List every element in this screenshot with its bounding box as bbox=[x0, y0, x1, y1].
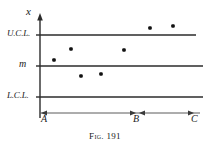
data-point bbox=[69, 47, 73, 51]
y-axis-label: x bbox=[26, 6, 31, 17]
x-tick-label-a: A bbox=[41, 114, 47, 124]
figure-caption: Fig. 191 bbox=[0, 131, 210, 141]
control-chart-svg bbox=[0, 0, 210, 126]
data-point-group bbox=[52, 24, 175, 78]
data-point bbox=[79, 74, 83, 78]
caption-prefix: Fig. bbox=[89, 131, 104, 141]
data-point bbox=[122, 48, 126, 52]
x-tick-label-c: C bbox=[191, 114, 198, 124]
control-chart-plot: x U.C.L. m L.C.L. A B C bbox=[0, 0, 210, 126]
figure-191: x U.C.L. m L.C.L. A B C Fig. 191 bbox=[0, 0, 210, 154]
lcl-label: L.C.L. bbox=[7, 91, 29, 100]
x-tick-label-b: B bbox=[133, 114, 139, 124]
caption-number: 191 bbox=[106, 131, 120, 141]
ucl-label: U.C.L. bbox=[7, 29, 30, 38]
mean-label: m bbox=[19, 59, 26, 69]
arrowhead-left-b bbox=[139, 110, 145, 115]
y-axis-arrowhead bbox=[37, 13, 43, 21]
data-point bbox=[171, 24, 175, 28]
data-point bbox=[99, 72, 103, 76]
data-point bbox=[148, 26, 152, 30]
data-point bbox=[52, 58, 56, 62]
